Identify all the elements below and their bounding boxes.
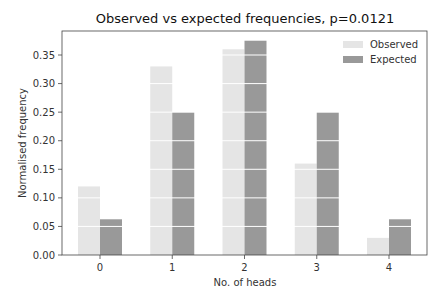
bar-observed (295, 164, 317, 255)
x-axis-label: No. of heads (214, 277, 277, 288)
x-tick-label: 2 (241, 262, 247, 273)
y-tick-label: 0.10 (33, 192, 55, 203)
x-tick-label: 3 (314, 262, 320, 273)
y-axis: 0.000.050.100.150.200.250.300.35 (33, 50, 62, 261)
y-axis-label: Normalised frequency (17, 88, 28, 198)
bar-expected (389, 219, 411, 255)
bars (78, 41, 411, 255)
bar-expected (317, 112, 339, 255)
legend-label: Observed (370, 39, 418, 50)
chart-title: Observed vs expected frequencies, p=0.01… (96, 11, 394, 26)
bar-expected (172, 112, 194, 255)
legend-swatch (343, 41, 363, 48)
x-axis: 01234 (97, 255, 392, 273)
y-tick-label: 0.00 (33, 250, 55, 261)
y-tick-label: 0.30 (33, 78, 55, 89)
x-tick-label: 1 (169, 262, 175, 273)
x-tick-label: 0 (97, 262, 103, 273)
bar-observed (223, 49, 245, 255)
bar-observed (78, 186, 100, 255)
y-tick-label: 0.35 (33, 50, 55, 61)
y-tick-label: 0.05 (33, 221, 55, 232)
bar-expected (245, 41, 267, 255)
y-tick-label: 0.25 (33, 107, 55, 118)
legend-swatch (343, 56, 363, 63)
y-tick-label: 0.20 (33, 135, 55, 146)
legend-label: Expected (370, 54, 417, 65)
bar-expected (100, 219, 122, 255)
bar-observed (367, 238, 389, 255)
legend: ObservedExpected (343, 39, 418, 65)
bar-chart: Observed vs expected frequencies, p=0.01… (0, 0, 448, 301)
y-tick-label: 0.15 (33, 164, 55, 175)
x-tick-label: 4 (386, 262, 392, 273)
